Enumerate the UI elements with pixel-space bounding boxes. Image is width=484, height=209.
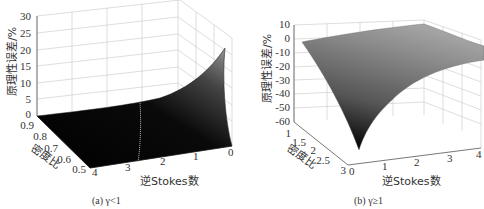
svg-text:0: 0 bbox=[349, 165, 355, 177]
surface-a bbox=[37, 48, 232, 168]
caption-a: (a) γ<1 bbox=[92, 195, 121, 206]
svg-text:0: 0 bbox=[228, 146, 234, 158]
svg-text:10: 10 bbox=[279, 18, 291, 30]
svg-text:2: 2 bbox=[160, 155, 166, 167]
svg-text:2: 2 bbox=[414, 156, 420, 168]
svg-text:10: 10 bbox=[20, 77, 32, 89]
svg-text:3: 3 bbox=[341, 164, 347, 176]
svg-text:1: 1 bbox=[286, 127, 292, 139]
svg-text:15: 15 bbox=[20, 60, 32, 72]
svg-text:-60: -60 bbox=[275, 115, 290, 127]
chart-panel-b: 10 0 -10 -20 -30 -40 -50 -60 1 1.5 2 2.5… bbox=[242, 0, 484, 209]
svg-text:1: 1 bbox=[382, 160, 388, 172]
svg-text:3: 3 bbox=[447, 152, 453, 164]
svg-text:30: 30 bbox=[20, 10, 32, 22]
svg-text:-40: -40 bbox=[275, 87, 290, 99]
svg-text:20: 20 bbox=[20, 44, 32, 56]
caption-b: (b) γ≥1 bbox=[354, 195, 383, 206]
svg-text:0: 0 bbox=[285, 32, 291, 44]
x-axis-label-b: 逆Stokes数 bbox=[382, 174, 441, 188]
svg-text:1: 1 bbox=[193, 150, 199, 162]
svg-text:-50: -50 bbox=[275, 101, 290, 113]
z-ticks-b: 10 0 -10 -20 -30 -40 -50 -60 bbox=[275, 18, 290, 127]
svg-text:25: 25 bbox=[20, 27, 32, 39]
svg-text:3: 3 bbox=[125, 161, 131, 173]
svg-text:-30: -30 bbox=[275, 74, 290, 86]
svg-text:0.5: 0.5 bbox=[72, 163, 86, 175]
x-axis-label-a: 逆Stokes数 bbox=[140, 174, 199, 188]
svg-text:5: 5 bbox=[26, 93, 32, 105]
chart-panel-a: 30 25 20 15 10 5 0 0.9 0.8 0.7 0.6 0.5 4… bbox=[0, 0, 242, 209]
svg-text:-10: -10 bbox=[275, 46, 290, 58]
z-axis-label-b: 原理性误差/% bbox=[260, 34, 274, 103]
z-axis-label-a: 原理性误差/% bbox=[5, 27, 19, 96]
svg-text:4: 4 bbox=[92, 166, 98, 178]
surface-plot-b: 10 0 -10 -20 -30 -40 -50 -60 1 1.5 2 2.5… bbox=[242, 0, 484, 209]
z-ticks-a: 30 25 20 15 10 5 0 bbox=[20, 10, 32, 120]
svg-text:0.8: 0.8 bbox=[33, 130, 47, 142]
svg-text:-20: -20 bbox=[275, 60, 290, 72]
svg-text:4: 4 bbox=[476, 148, 482, 160]
svg-text:2: 2 bbox=[311, 144, 317, 156]
surface-plot-a: 30 25 20 15 10 5 0 0.9 0.8 0.7 0.6 0.5 4… bbox=[0, 0, 242, 209]
